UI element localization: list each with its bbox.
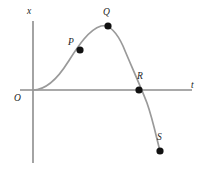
- origin-label: O: [14, 94, 21, 104]
- data-point-r: [135, 86, 142, 93]
- x-axis-label: t: [191, 81, 194, 91]
- data-point-p: [76, 46, 83, 53]
- point-label-s: S: [157, 133, 162, 143]
- point-label-p: P: [68, 38, 74, 48]
- point-label-r: R: [137, 72, 143, 82]
- graph-canvas: [0, 0, 205, 172]
- y-axis-label: x: [27, 7, 31, 17]
- data-point-s: [156, 147, 163, 154]
- point-label-q: Q: [103, 8, 110, 18]
- data-point-q: [104, 22, 111, 29]
- graph-figure: x t O P Q R S: [0, 0, 205, 172]
